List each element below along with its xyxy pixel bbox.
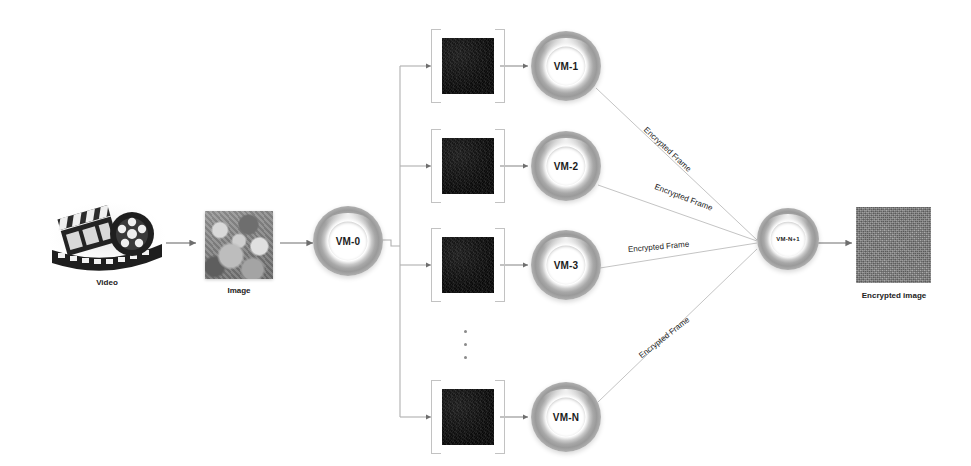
encrypted-frame-vm-3	[430, 228, 506, 302]
encrypted-frame-vm-2	[430, 129, 506, 203]
bracket-left	[431, 228, 441, 302]
encrypted-image-caption: Encrypted image	[850, 291, 938, 300]
vm-node-label: VM-1	[554, 61, 579, 72]
dark-video-frame	[442, 138, 494, 194]
dark-video-frame	[442, 38, 494, 94]
bracket-left	[431, 129, 441, 203]
vm-node-label: VM-2	[554, 161, 579, 172]
video-source: Video	[46, 196, 168, 292]
vm-node-label: VM-3	[554, 260, 579, 271]
edge-label-vm-3: Encrypted Frame	[628, 240, 690, 254]
ellipsis-dot	[464, 356, 467, 359]
edge-label-vm-2: Encrypted Frame	[653, 182, 714, 212]
diagram-canvas: Video Image VM-0 VM-1 Encrypted Frame VM…	[0, 0, 971, 466]
edge-label-vm-1: Encrypted Frame	[642, 125, 693, 173]
grayscale-photo-thumbnail	[205, 211, 273, 279]
vm-node-label: VM-N+1	[776, 236, 799, 242]
encrypted-frame-vm-1	[430, 29, 506, 103]
bracket-right	[495, 228, 505, 302]
encrypted-output: Encrypted image	[856, 207, 934, 307]
vm-node-vm-n[interactable]: VM-N	[531, 382, 601, 452]
worker-ellipsis	[464, 330, 467, 369]
bracket-right	[495, 29, 505, 103]
bracket-left	[431, 29, 441, 103]
encrypted-frame-vm-n	[430, 380, 506, 454]
vm-node-vm-1[interactable]: VM-1	[531, 31, 601, 101]
dark-video-frame	[442, 237, 494, 293]
film-reel-clapperboard-icon	[46, 196, 168, 274]
vm-node-vm-0[interactable]: VM-0	[313, 206, 383, 276]
image-source: Image	[205, 211, 275, 307]
bracket-right	[495, 380, 505, 454]
vm-node-aggregator[interactable]: VM-N+1	[757, 208, 819, 270]
ellipsis-dot	[464, 330, 467, 333]
vm-node-vm-2[interactable]: VM-2	[531, 131, 601, 201]
image-caption: Image	[205, 286, 273, 295]
vm-node-vm-3[interactable]: VM-3	[531, 230, 601, 300]
gray-noise-thumbnail	[856, 207, 931, 283]
video-caption: Video	[46, 278, 168, 287]
bracket-right	[495, 129, 505, 203]
ellipsis-dot	[464, 343, 467, 346]
vm-node-label: VM-N	[553, 412, 579, 423]
dark-video-frame	[442, 389, 494, 445]
bracket-left	[431, 380, 441, 454]
vm-node-label: VM-0	[336, 236, 361, 247]
edge-label-vm-n: Encrypted Frame	[637, 315, 691, 360]
